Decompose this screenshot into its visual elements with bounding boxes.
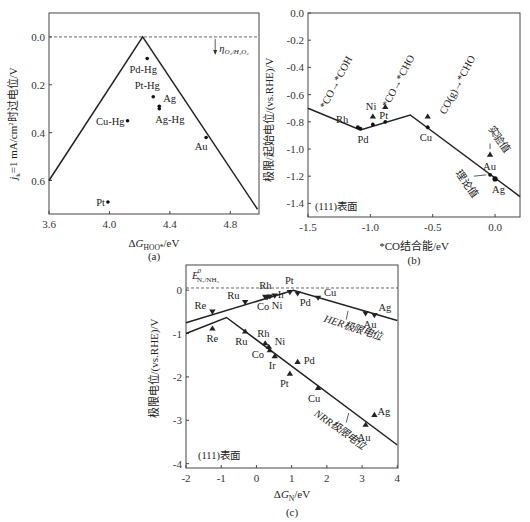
data-point (204, 136, 208, 140)
x-tick-label: 3 (359, 472, 365, 484)
point-label: Pd (357, 134, 369, 145)
x-tick-label: -2 (181, 472, 190, 484)
nrr-point-label: Rh (257, 328, 270, 339)
her-point-label: Cu (324, 287, 337, 298)
her-point-label: Rh (259, 280, 272, 291)
y-tick-label: 0.0 (290, 7, 304, 19)
experiment-point (425, 113, 431, 118)
x-tick-label: -1 (217, 472, 226, 484)
data-point (106, 200, 110, 204)
text-span: =1 mA/cm (7, 125, 19, 173)
nrr-line-label: NRR极限电位 (312, 407, 370, 452)
x-tick-label: 4.4 (163, 218, 177, 230)
y-tick-label: 0 (177, 284, 183, 296)
point-label: Au (483, 161, 497, 172)
theory-point (371, 123, 375, 127)
her-point-label: Pd (300, 297, 312, 308)
her-point-label: Co (257, 301, 269, 312)
x-tick-label: 0 (254, 472, 260, 484)
reaction-label: *CO→*COH (318, 54, 355, 111)
point-label: Ag-Hg (155, 114, 185, 125)
volcano-line (49, 37, 257, 209)
data-point (151, 95, 155, 99)
point-label: Pd-Hg (129, 64, 157, 75)
y-tick-label: -4 (173, 458, 183, 470)
x-tick-label: 4.8 (223, 218, 237, 230)
x-tick-label: -0.5 (424, 221, 442, 233)
text-span: G (281, 488, 289, 500)
plot-frame (49, 13, 259, 214)
her-point-label: Re (194, 300, 206, 311)
panel-label: (b) (408, 254, 421, 267)
data-point (145, 57, 149, 61)
point-label: Cu-Hg (96, 116, 125, 127)
eta-arrow-head (213, 50, 217, 55)
x-tick-label: 0.0 (488, 221, 502, 233)
x-axis-label: ΔGN/eV (274, 488, 310, 503)
nrr-point-label: Ni (275, 336, 286, 347)
chart-c: -2-1012340-1-2-3-4E0N₂/NH₃ReRuRhCoNiIrPt… (147, 265, 401, 519)
nrr-point-label: Pt (280, 378, 289, 389)
text-span: Δ (274, 488, 281, 500)
data-point (126, 119, 130, 123)
y-tick-label: -1.2 (287, 170, 304, 182)
y-tick-label: -2 (173, 371, 182, 383)
point-label: Ni (366, 101, 377, 112)
chart-b: -1.5-1.0-0.50.00.0-0.2-0.4-0.6-0.8-1.0-1… (262, 7, 520, 267)
her-point-label: Ag (378, 302, 392, 313)
her-point-label: Pt (285, 275, 294, 286)
nrr-point-label: Ag (377, 406, 391, 417)
her-point-label: Ir (278, 289, 285, 300)
text-span: 时过电位/V (6, 67, 19, 122)
reaction-label: *CO→*CHO (380, 53, 417, 110)
panel-label: (a) (148, 250, 161, 263)
x-tick-label: 2 (324, 472, 330, 484)
y-axis-label: 极限电位/(vs.RHE)/V (147, 318, 161, 418)
experiment-point (370, 113, 376, 118)
y-tick-label: 0.4 (31, 127, 45, 139)
her-point (362, 311, 368, 316)
y-tick-label: -1.4 (287, 197, 305, 209)
y-tick-label: -0.4 (287, 61, 305, 73)
x-tick-label: 4.0 (103, 218, 117, 230)
her-point-label: Ru (227, 290, 240, 301)
her-point-label: Ni (272, 300, 283, 311)
eta-annotation: ηO₂/H₂O₂ (219, 43, 249, 56)
point-label: Ag (163, 93, 177, 104)
theory-point (492, 176, 497, 181)
point-label: Pt (379, 110, 388, 121)
nrr-point-label: Pd (304, 355, 316, 366)
y-tick-label: 0.2 (31, 79, 45, 91)
point-label: Pt (96, 197, 105, 208)
x-tick-label: 4 (395, 472, 401, 484)
y-tick-label: -1.0 (287, 143, 305, 155)
theory-point (488, 173, 492, 177)
nrr-arrow (346, 413, 348, 423)
text-span: N₂/NH₃ (197, 276, 220, 284)
chart-a: 3.64.04.44.80.00.20.40.6ηO₂/H₂O₂Pd-HgPt-… (6, 13, 259, 263)
her-point (371, 313, 377, 318)
theory-point (358, 127, 362, 131)
her-arrow (346, 311, 348, 320)
x-tick-label: -1.0 (362, 221, 380, 233)
point-label: Cu (420, 132, 433, 143)
y-axis-label: 极限/起始电位/(vs.RHE)/V (262, 57, 276, 182)
text-span: /eV (294, 488, 310, 500)
nrr-point-label: Ru (235, 336, 248, 347)
reaction-label: CO(g)→*CHO (437, 53, 478, 116)
experiment-point (487, 152, 493, 157)
text-span: 0 (197, 267, 201, 275)
data-point (157, 107, 161, 111)
nrr-point (209, 325, 215, 330)
theory-arrow (474, 175, 486, 176)
theory-callout: 理论值 (454, 168, 482, 200)
point-label: Au (195, 141, 209, 152)
y-tick-label: -0.2 (287, 34, 304, 46)
y-tick-label: 0.0 (31, 31, 45, 43)
x-tick-label: 1 (289, 472, 295, 484)
nrr-point (262, 340, 268, 345)
point-label: Ag (492, 184, 506, 195)
y-axis-label: jk=1 mA/cm2时过电位/V (6, 67, 22, 182)
theory-point (426, 125, 430, 129)
surface-label: (111)表面 (198, 449, 240, 462)
